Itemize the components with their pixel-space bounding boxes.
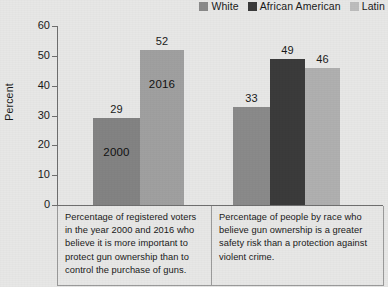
bar-value-label: 49 — [268, 44, 308, 56]
y-tick-label-30: 30 — [26, 109, 50, 121]
y-axis-line — [57, 26, 58, 206]
y-tick-label-50: 50 — [26, 49, 50, 61]
bar-white — [233, 107, 270, 205]
caption-group-1: Percentage of registered voters in the y… — [58, 206, 212, 285]
bar-value-label: 33 — [232, 92, 272, 104]
bar-latin — [305, 68, 340, 205]
legend-label: African American — [260, 1, 341, 12]
y-tick-label-10: 10 — [26, 168, 50, 180]
bar-2000 — [93, 118, 140, 205]
legend-label: Latin — [362, 1, 385, 12]
y-tick-label-40: 40 — [26, 79, 50, 91]
caption-panels: Percentage of registered voters in the y… — [57, 206, 384, 286]
legend-swatch-icon — [199, 2, 208, 11]
bar-2016 — [140, 50, 184, 205]
bar-value-label: 46 — [303, 53, 343, 65]
legend-label: White — [211, 1, 238, 12]
y-tick-label-0: 0 — [26, 198, 50, 210]
chart-legend: WhiteAfrican AmericanLatin — [199, 1, 385, 12]
y-tick-label-20: 20 — [26, 138, 50, 150]
legend-item-0: White — [199, 1, 238, 12]
bar-african-american — [270, 59, 305, 205]
legend-item-2: Latin — [350, 1, 385, 12]
caption-group-2: Percentage of people by race who believe… — [212, 206, 383, 285]
bar-value-label: 52 — [142, 35, 182, 47]
legend-swatch-icon — [350, 2, 359, 11]
bar-inner-label-2000: 2000 — [87, 146, 147, 158]
legend-item-1: African American — [248, 1, 341, 12]
y-tick-label-60: 60 — [26, 19, 50, 31]
legend-swatch-icon — [248, 2, 257, 11]
y-axis-title: Percent — [3, 62, 15, 142]
bar-inner-label-2016: 2016 — [132, 78, 192, 90]
bar-value-label: 29 — [97, 103, 137, 115]
